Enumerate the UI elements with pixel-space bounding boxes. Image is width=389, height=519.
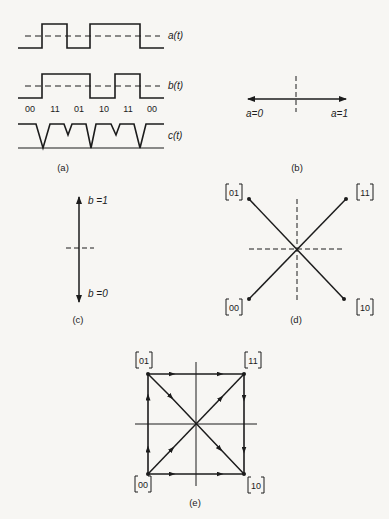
panel-e-transitions: 01 11 00 10 (e): [135, 352, 264, 508]
label-a-1: a=1: [331, 108, 348, 119]
bit-pair: 11: [50, 104, 59, 114]
point-10: [342, 297, 346, 301]
bit-pair: 10: [99, 104, 109, 114]
svg-text:00: 00: [138, 480, 148, 490]
panel-caption-a: (a): [57, 162, 69, 173]
panel-a-waveforms: a(t) b(t) 00 11 01 10 11 00 c(t) (a): [18, 24, 183, 173]
svg-text:11: 11: [360, 188, 369, 198]
signal-label-a: a(t): [168, 30, 183, 41]
label-11: 11: [357, 184, 373, 200]
svg-text:00: 00: [229, 303, 239, 313]
panel-caption-c: (c): [72, 314, 83, 325]
envelope-wave: [18, 124, 164, 148]
signal-label-b: b(t): [168, 80, 183, 91]
svg-text:01: 01: [139, 356, 149, 366]
bit-pair: 00: [25, 104, 35, 114]
svg-text:10: 10: [360, 303, 370, 313]
panel-caption-d: (d): [290, 314, 302, 325]
label-01: 01: [136, 352, 152, 368]
svg-text:01: 01: [229, 188, 239, 198]
bit-pair: 00: [147, 104, 157, 114]
point-00: [146, 472, 150, 476]
svg-text:10: 10: [251, 481, 261, 491]
label-b-1: b =1: [88, 195, 108, 206]
label-10: 10: [248, 477, 264, 493]
diagram-canvas: a(t) b(t) 00 11 01 10 11 00 c(t) (a): [0, 0, 389, 519]
bit-pair-labels: 00 11 01 10 11 00: [25, 104, 157, 114]
bit-pair: 01: [74, 104, 84, 114]
panel-d-constellation: 01 11 00 10 (d): [226, 184, 373, 325]
waveform-b: b(t): [18, 74, 183, 98]
panel-caption-e: (e): [189, 497, 201, 508]
point-11: [344, 197, 348, 201]
signal-label-c: c(t): [168, 130, 182, 141]
label-a-0: a=0: [246, 108, 263, 119]
point-00: [247, 297, 251, 301]
panel-b-a-axis: a=0 a=1 (b): [246, 76, 348, 173]
panel-caption-b: (b): [291, 162, 303, 173]
point-01: [146, 372, 150, 376]
label-01: 01: [226, 184, 242, 200]
label-11: 11: [245, 352, 261, 368]
label-00: 00: [226, 299, 242, 315]
point-10: [242, 472, 246, 476]
point-01: [247, 197, 251, 201]
waveform-c: c(t): [18, 124, 182, 148]
panel-c-b-axis: b =1 b =0 (c): [66, 195, 108, 325]
waveform-a: a(t): [18, 24, 183, 48]
label-00: 00: [135, 476, 151, 492]
label-10: 10: [357, 299, 373, 315]
svg-text:11: 11: [248, 356, 257, 366]
point-11: [242, 372, 246, 376]
label-b-0: b =0: [88, 288, 108, 299]
bit-pair: 11: [123, 104, 132, 114]
